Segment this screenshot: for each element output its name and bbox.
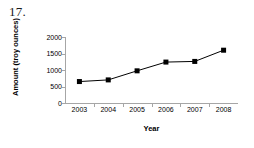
x-tick-label: 2005 [122,106,152,114]
x-tick-label: 2008 [209,106,239,114]
data-point-marker [221,48,226,53]
y-tick-label: 2000 [38,34,62,41]
x-tick-mark [123,104,124,107]
x-tick-mark [180,104,181,107]
y-tick-label: 1500 [38,50,62,57]
y-tick-mark [62,70,65,71]
y-tick-mark [62,87,65,88]
y-tick-mark [62,54,65,55]
worksheet-page: 17. Amount (troy ounces) 050010001500200… [0,0,254,148]
data-point-marker [192,59,197,64]
x-tick-mark [209,104,210,107]
data-point-marker [163,60,168,65]
y-axis-tick-labels: 0500100015002000 [36,22,62,148]
series-markers [77,48,226,84]
x-tick-label: 2006 [151,106,181,114]
line-chart: Amount (troy ounces) 0500100015002000 20… [0,22,254,148]
x-tick-mark [152,104,153,107]
series-line [79,50,223,81]
x-tick-label: 2007 [180,106,210,114]
data-point-marker [135,68,140,73]
y-tick-mark [62,37,65,38]
x-tick-label: 2003 [64,106,94,114]
x-axis-title: Year [65,124,238,133]
y-tick-label: 1000 [38,67,62,74]
data-point-marker [106,77,111,82]
data-series [65,37,238,105]
y-tick-mark [62,103,65,104]
x-tick-mark [94,104,95,107]
x-tick-label: 2004 [93,106,123,114]
y-tick-label: 0 [38,100,62,107]
y-axis-title: Amount (troy ounces) [10,14,22,100]
data-point-marker [77,79,82,84]
y-tick-label: 500 [38,83,62,90]
